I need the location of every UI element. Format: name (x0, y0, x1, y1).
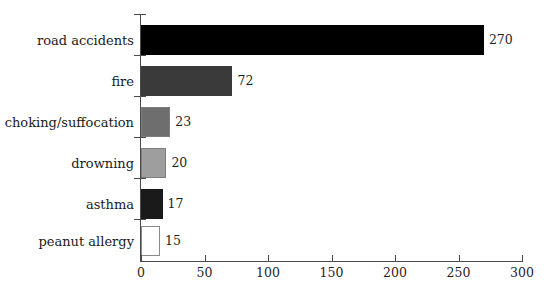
bar-value-label: 72 (237, 73, 253, 89)
bar-segment (141, 107, 170, 137)
category-label: peanut allergy (38, 233, 134, 250)
x-axis-tick-label: 300 (510, 265, 534, 281)
x-axis-tick (459, 255, 460, 262)
bar-row: asthma 17 (0, 184, 558, 224)
x-axis-tick (268, 255, 269, 262)
x-axis-tick (332, 255, 333, 262)
x-axis-tick-label: 0 (137, 265, 145, 281)
x-axis-tick (395, 255, 396, 262)
bar-value-label: 20 (171, 155, 187, 171)
bar-segment (141, 189, 163, 219)
x-axis-tick (522, 255, 523, 262)
bar-value-label: 17 (168, 196, 184, 212)
x-axis-tick-label: 150 (320, 265, 344, 281)
x-axis-tick (205, 255, 206, 262)
x-axis-tick-label: 100 (256, 265, 280, 281)
bar-segment (141, 66, 232, 96)
bar-value-label: 270 (489, 32, 513, 48)
y-axis-tick (134, 14, 146, 15)
bar-row: fire 72 (0, 61, 558, 101)
bar-value-label: 15 (165, 233, 181, 249)
bar-row: choking/suffocation 23 (0, 102, 558, 142)
x-axis-tick-label: 50 (197, 265, 213, 281)
bar-row: road accidents 270 (0, 20, 558, 60)
bar-segment (141, 226, 160, 256)
bar-segment (141, 25, 484, 55)
category-label: road accidents (37, 32, 134, 49)
bar-value-label: 23 (175, 114, 191, 130)
bar-row: drowning 20 (0, 143, 558, 183)
x-axis-tick-label: 250 (447, 265, 471, 281)
x-axis-tick-label: 200 (383, 265, 407, 281)
category-label: fire (111, 73, 134, 90)
category-label: drowning (71, 155, 134, 172)
category-label: asthma (86, 196, 134, 213)
bar-segment (141, 148, 166, 178)
bar-chart: road accidents 270 fire 72 choking/suffo… (0, 0, 558, 290)
category-label: choking/suffocation (5, 114, 134, 131)
bar-row: peanut allergy 15 (0, 221, 558, 261)
x-axis-tick (141, 255, 142, 262)
